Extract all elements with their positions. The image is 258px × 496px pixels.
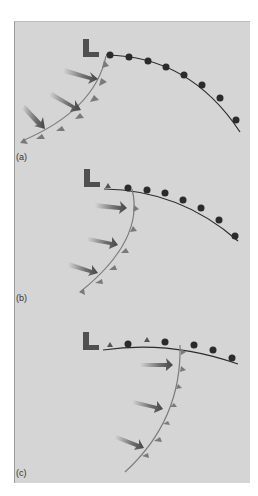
panel-label: (a) bbox=[16, 152, 27, 162]
wind-arrows bbox=[115, 358, 173, 450]
warm-front bbox=[106, 55, 240, 132]
warm-front bbox=[104, 189, 238, 241]
low-symbol-icon bbox=[83, 39, 99, 57]
panel-label: (c) bbox=[16, 468, 27, 478]
low-symbol-icon bbox=[84, 169, 100, 187]
panel-b: (b) bbox=[16, 169, 239, 303]
warm-front-symbols bbox=[107, 337, 236, 362]
cold-front-triangles bbox=[79, 205, 139, 295]
front-diagram: (a) (b) bbox=[0, 0, 258, 496]
panel-c: (c) bbox=[16, 332, 238, 478]
panel-a: (a) bbox=[16, 39, 240, 162]
warm-front bbox=[103, 347, 238, 364]
warm-front-semicircles bbox=[107, 52, 240, 124]
low-symbol-icon bbox=[83, 332, 99, 350]
panel-label: (b) bbox=[16, 293, 27, 303]
wind-arrows bbox=[68, 201, 127, 276]
